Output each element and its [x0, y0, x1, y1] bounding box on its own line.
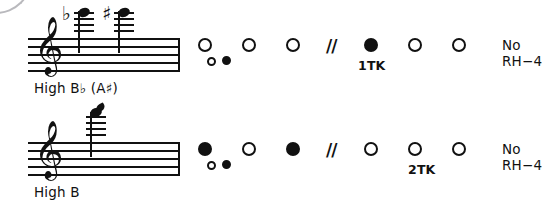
hole-lh-3[interactable] [286, 38, 300, 52]
note-stem [90, 112, 92, 157]
barline [178, 38, 180, 72]
treble-clef-icon: 𝄞 [34, 20, 64, 70]
fingering-note-text: No RH−4 [502, 37, 544, 69]
note-stem [118, 11, 120, 53]
fingering-note-text: No RH−4 [502, 141, 544, 173]
note-name-label: High B♭ (A♯) [34, 80, 118, 96]
hand-separator: // [326, 38, 336, 55]
ledger-line [86, 128, 106, 130]
fingering-diagram: // 2TK No RH−4 [186, 104, 544, 209]
ledger-line [74, 30, 94, 32]
ledger-line [114, 24, 134, 26]
fingering-diagram: // 1TK No RH−4 [186, 0, 544, 104]
hole-lh-3[interactable] [286, 142, 300, 156]
fingering-chart-page: 𝄞 ♭ ♯ High B♭ (A♯) [0, 0, 544, 209]
accidental-sharp: ♯ [102, 4, 111, 23]
hole-lh-aux-1[interactable] [207, 161, 216, 170]
note-flag [95, 102, 106, 112]
octave-key-label: 1TK [358, 58, 386, 73]
music-notation: 𝄞 ♭ ♯ [28, 8, 178, 76]
hole-rh-1[interactable] [364, 142, 378, 156]
hole-lh-2[interactable] [242, 38, 256, 52]
hole-rh-2[interactable] [408, 142, 422, 156]
hole-lh-1[interactable] [198, 38, 212, 52]
barline [178, 142, 180, 176]
ledger-line [74, 24, 94, 26]
hole-lh-aux-2[interactable] [222, 56, 231, 65]
hole-lh-1[interactable] [198, 142, 212, 156]
note-stem [78, 11, 80, 53]
hole-lh-aux-1[interactable] [207, 57, 216, 66]
hole-rh-3[interactable] [452, 38, 466, 52]
ledger-line [86, 122, 106, 124]
ledger-line [114, 30, 134, 32]
hole-lh-2[interactable] [242, 142, 256, 156]
hole-rh-3[interactable] [452, 142, 466, 156]
treble-clef-icon: 𝄞 [34, 124, 64, 174]
ledger-line [114, 18, 134, 20]
hole-rh-1[interactable] [364, 38, 378, 52]
ledger-line [86, 134, 106, 136]
note-name-label: High B [34, 184, 80, 200]
fingering-row-high-b: 𝄞 High B // 2TK No RH−4 [0, 104, 544, 209]
octave-key-label: 2TK [408, 162, 436, 177]
ledger-line [74, 18, 94, 20]
music-notation: 𝄞 [28, 112, 178, 180]
hole-lh-aux-2[interactable] [222, 160, 231, 169]
hand-separator: // [326, 142, 336, 159]
hole-rh-2[interactable] [408, 38, 422, 52]
accidental-flat: ♭ [62, 4, 71, 23]
fingering-row-high-b-flat: 𝄞 ♭ ♯ High B♭ (A♯) [0, 0, 544, 104]
